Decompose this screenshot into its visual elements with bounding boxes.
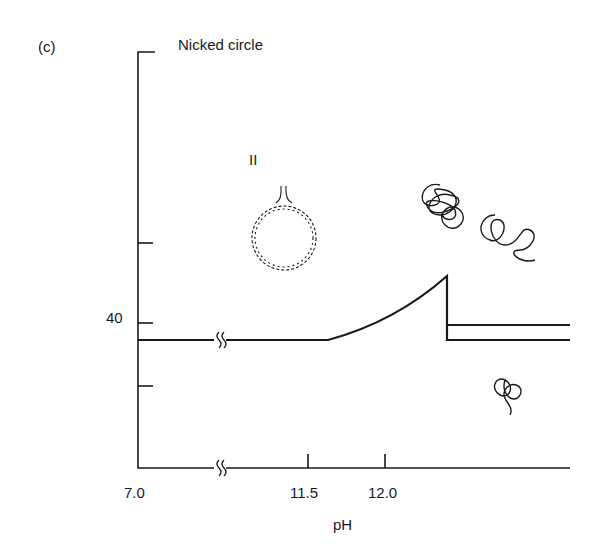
curve-break-icon [214, 332, 226, 348]
nicked-circle-icon [252, 186, 316, 270]
random-coil-icon [422, 184, 535, 415]
axis-break-icon [214, 460, 226, 476]
plot-area [0, 0, 593, 548]
series-line [138, 276, 570, 340]
axes [138, 52, 570, 468]
axes-frame [138, 52, 570, 468]
